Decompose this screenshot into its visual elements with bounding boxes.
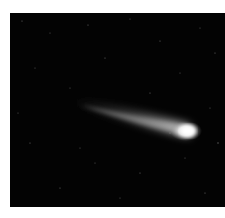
caption <box>14 211 214 218</box>
figure <box>0 0 225 218</box>
comet-photo <box>10 13 225 207</box>
comet-illustration <box>10 13 225 207</box>
comet-nucleus <box>180 125 196 137</box>
